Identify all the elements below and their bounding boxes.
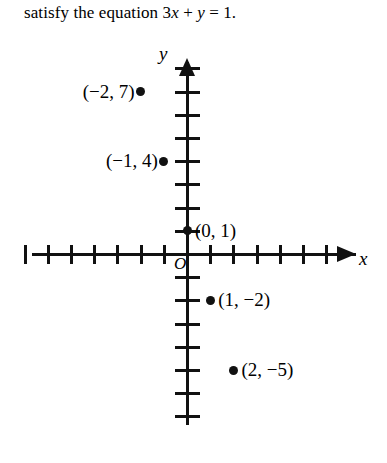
- x-tick: [140, 245, 143, 264]
- y-tick: [175, 91, 200, 94]
- x-tick: [116, 245, 119, 264]
- x-tick: [70, 245, 73, 264]
- data-point: [206, 296, 215, 305]
- y-tick: [175, 207, 200, 210]
- y-tick: [175, 392, 200, 395]
- x-axis-label: x: [359, 248, 367, 270]
- y-tick: [175, 276, 200, 279]
- y-tick: [175, 67, 200, 70]
- x-tick: [325, 245, 328, 264]
- data-point: [159, 157, 168, 166]
- x-tick: [163, 245, 166, 264]
- data-point: [136, 87, 145, 96]
- data-point-label: (−2, 7): [83, 82, 135, 101]
- caption-equals: =: [205, 3, 223, 22]
- x-tick: [209, 245, 212, 264]
- data-point-label: (−1, 4): [106, 151, 158, 170]
- y-axis-label: y: [159, 43, 167, 65]
- y-tick: [175, 137, 200, 140]
- y-tick: [175, 323, 200, 326]
- x-tick: [302, 245, 305, 264]
- y-tick: [175, 346, 200, 349]
- y-tick: [175, 183, 200, 186]
- y-tick: [175, 160, 200, 163]
- caption-prefix: satisfy the equation: [24, 3, 163, 22]
- y-tick: [175, 369, 200, 372]
- caption-rhs: 1: [223, 3, 232, 22]
- data-point-label: (2, −5): [241, 360, 293, 379]
- caption-variable-y: y: [197, 3, 205, 22]
- caption-coefficient: 3: [163, 3, 172, 22]
- data-point-label: (0, 1): [195, 221, 236, 240]
- data-point-label: (1, −2): [218, 290, 270, 309]
- origin-label: O: [174, 254, 186, 274]
- data-point: [229, 366, 238, 375]
- figure-canvas: satisfy the equation 3x + y = 1. (−2, 7)…: [0, 0, 387, 463]
- caption-plus: +: [179, 3, 197, 22]
- x-tick: [47, 245, 50, 264]
- x-tick: [256, 245, 259, 264]
- y-tick: [175, 114, 200, 117]
- caption-period: .: [232, 3, 236, 22]
- data-point: [183, 226, 192, 235]
- y-tick: [175, 299, 200, 302]
- x-tick: [24, 245, 27, 264]
- caption-text: satisfy the equation 3x + y = 1.: [24, 2, 374, 24]
- caption-variable-x: x: [171, 3, 179, 22]
- x-tick: [279, 245, 282, 264]
- x-axis-line: [32, 253, 356, 256]
- x-tick: [232, 245, 235, 264]
- y-tick: [175, 415, 200, 418]
- x-tick: [93, 245, 96, 264]
- x-axis-arrow-icon: [337, 246, 356, 262]
